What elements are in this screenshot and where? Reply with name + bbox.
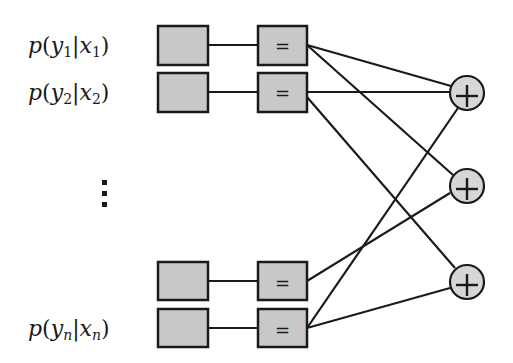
row-label: p(yn|xn) (28, 316, 110, 343)
equals-symbol: = (275, 82, 290, 103)
row-n: = p(yn|xn) (28, 309, 307, 347)
check-node-2 (450, 169, 484, 203)
factor-box (158, 309, 208, 347)
row-n-minus-1: = (158, 262, 307, 300)
vertical-ellipsis-icon (102, 180, 107, 207)
factor-box (158, 262, 208, 300)
row-1: = p(y1|x1) (28, 26, 307, 65)
edge-row2-check3 (307, 97, 455, 268)
row-label: p(y1|x1) (28, 33, 109, 60)
edge-row1-check2 (307, 45, 453, 175)
equals-symbol: = (275, 35, 290, 56)
edge-rown-check1 (307, 108, 458, 328)
equals-symbol: = (275, 272, 290, 293)
check-node-1 (450, 76, 484, 110)
equals-symbol: = (275, 319, 290, 340)
row-2: = p(y2|x2) (28, 73, 307, 112)
edge-rown-check3 (307, 288, 450, 328)
factor-box (158, 26, 208, 65)
factor-graph: = p(y1|x1) = p(y2|x2) = = p(yn|xn) (0, 0, 513, 363)
factor-box (158, 73, 208, 112)
row-label: p(y2|x2) (28, 80, 109, 107)
edges (307, 45, 458, 328)
check-node-3 (450, 265, 484, 299)
